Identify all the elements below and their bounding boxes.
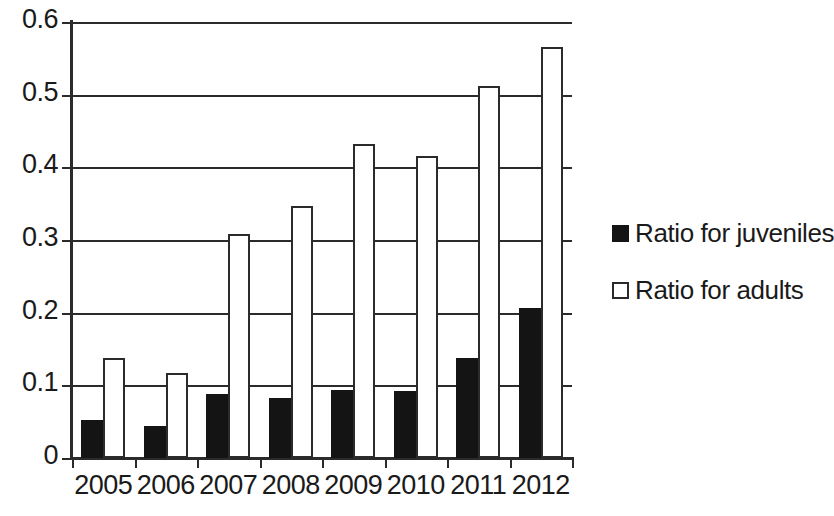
y-axis-tick [62,385,71,387]
legend-label-adults: Ratio for adults [635,275,803,306]
bar-juveniles-2007 [206,394,228,458]
chart-legend: Ratio for juveniles Ratio for adults [612,218,832,332]
y-axis-tick [62,240,71,242]
x-axis-tick [260,457,262,468]
x-axis-tick [510,457,512,468]
x-axis-tick-label-2012: 2012 [501,470,581,501]
x-axis-tick [447,457,449,468]
bar-adults-2011 [478,86,500,458]
bar-juveniles-2006 [144,426,166,458]
x-axis-tick [197,457,199,468]
x-axis-tick [72,457,74,468]
bar-adults-2005 [103,358,125,458]
legend-item-adults: Ratio for adults [612,275,832,306]
x-axis-tick [135,457,137,468]
bar-adults-2008 [291,206,313,458]
y-axis-tick-label: 0 [0,440,58,471]
plot-area [72,22,572,458]
bar-juveniles-2005 [81,420,103,458]
x-axis-tick [572,457,574,468]
y-axis-tick [62,167,71,169]
y-axis-tick [62,95,71,97]
y-axis-tick [62,22,71,24]
bar-adults-2009 [353,144,375,458]
bar-juveniles-2010 [394,391,416,458]
hollow-square-icon [612,282,629,299]
bar-juveniles-2008 [269,398,291,458]
bar-adults-2007 [228,234,250,458]
y-axis-tick-label: 0.3 [0,222,58,253]
y-axis-tick-label: 0.4 [0,149,58,180]
y-axis-tick-label: 0.5 [0,77,58,108]
y-axis-tick-label: 0.2 [0,295,58,326]
x-axis-tick [385,457,387,468]
bar-adults-2010 [416,156,438,458]
filled-square-icon [612,225,629,242]
bar-adults-2012 [541,47,563,458]
bar-juveniles-2009 [331,390,353,458]
y-axis-tick [62,313,71,315]
bar-juveniles-2012 [519,308,541,458]
y-axis-tick-label: 0.1 [0,367,58,398]
bar-adults-2006 [166,373,188,458]
legend-label-juveniles: Ratio for juveniles [635,218,834,249]
y-axis-tick-label: 0.6 [0,4,58,35]
bar-juveniles-2011 [456,358,478,458]
y-axis-tick [62,458,71,460]
legend-item-juveniles: Ratio for juveniles [612,218,832,249]
x-axis-tick [322,457,324,468]
